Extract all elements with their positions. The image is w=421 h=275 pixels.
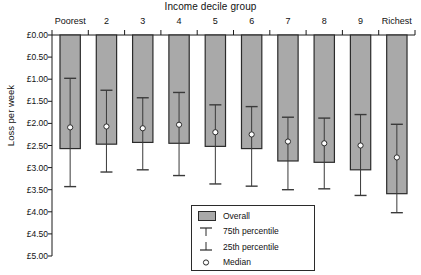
median-marker bbox=[358, 143, 363, 148]
legend-item: Overall bbox=[197, 210, 250, 221]
legend-swatch-overall bbox=[198, 211, 216, 221]
legend-item-label: Overall bbox=[223, 211, 250, 221]
median-marker bbox=[213, 130, 218, 135]
circle-marker-icon bbox=[197, 257, 215, 268]
legend-item-label: 75th percentile bbox=[223, 226, 279, 236]
legend-item: Median bbox=[197, 257, 251, 268]
median-marker bbox=[104, 124, 109, 129]
median-marker bbox=[285, 139, 290, 144]
legend-item: 25th percentile bbox=[197, 241, 279, 252]
median-marker bbox=[322, 141, 327, 146]
legend-item-label: Median bbox=[223, 257, 251, 267]
legend-item: 75th percentile bbox=[197, 226, 279, 237]
legend-item-label: 25th percentile bbox=[223, 242, 279, 252]
tee-down-icon bbox=[197, 241, 215, 252]
median-marker bbox=[249, 132, 254, 137]
chart-container: Income decile group Loss per week £0.00£… bbox=[0, 0, 421, 275]
median-marker bbox=[394, 155, 399, 160]
median-marker bbox=[176, 122, 181, 127]
median-marker bbox=[140, 126, 145, 131]
median-marker bbox=[68, 125, 73, 130]
tee-up-icon bbox=[197, 226, 215, 237]
